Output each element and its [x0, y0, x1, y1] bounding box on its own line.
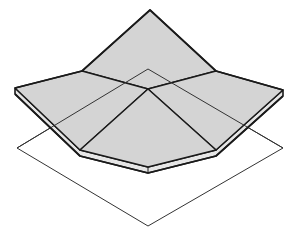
folded-sheet-diagram [0, 0, 296, 239]
